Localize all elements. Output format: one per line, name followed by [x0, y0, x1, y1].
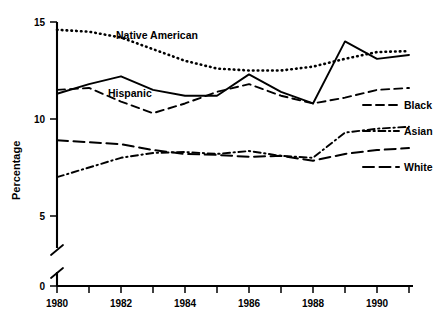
inline-annotation-group: Native American Hispanic — [108, 29, 198, 99]
x-tick-label-1984: 1984 — [174, 298, 197, 309]
y-axis-title: Percentage — [10, 141, 22, 200]
y-axis-group: 15 10 5 0 Percentage — [10, 17, 63, 292]
x-tick-label-1990: 1990 — [366, 298, 389, 309]
line-chart: 15 10 5 0 Percentage 1980 1982 1984 1986 — [0, 0, 443, 322]
inline-label-native-american: Native American — [116, 29, 198, 41]
legend-label-white: White — [404, 161, 433, 173]
legend-label-black: Black — [404, 99, 432, 111]
series-group — [57, 30, 409, 177]
series-line-white — [57, 140, 409, 160]
y-tick-label-10: 10 — [34, 114, 46, 125]
x-tick-label-1980: 1980 — [46, 298, 69, 309]
x-axis-group: 1980 1982 1984 1986 1988 1990 — [46, 286, 413, 309]
y-tick-label-15: 15 — [34, 17, 46, 28]
y-tick-label-5: 5 — [39, 211, 45, 222]
legend-label-asian: Asian — [404, 125, 433, 137]
x-tick-label-1982: 1982 — [110, 298, 133, 309]
chart-canvas: 15 10 5 0 Percentage 1980 1982 1984 1986 — [0, 0, 443, 322]
series-line-native-american — [57, 30, 409, 71]
x-tick-label-1988: 1988 — [302, 298, 325, 309]
y-tick-label-0: 0 — [39, 281, 45, 292]
x-tick-label-1986: 1986 — [238, 298, 261, 309]
legend: Black Asian White — [363, 99, 433, 173]
inline-label-hispanic: Hispanic — [108, 87, 152, 99]
